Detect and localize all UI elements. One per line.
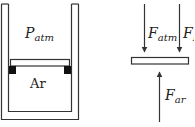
piston-weight-force-label: FP [182, 25, 194, 43]
cylinder: Patm Ar [2, 4, 79, 120]
cylinder-inner-wall [9, 4, 72, 112]
piston-diagram: Patm Ar Fatm FP Far [0, 0, 194, 127]
atmospheric-pressure-label: Patm [24, 25, 54, 43]
stop-block-left [9, 66, 16, 74]
argon-gas-label: Ar [29, 76, 46, 91]
stop-block-right [64, 66, 71, 74]
free-body-plate [132, 58, 189, 65]
free-body-diagram: Fatm FP Far [132, 4, 195, 122]
atmospheric-force-label: Fatm [147, 25, 177, 43]
piston [11, 60, 70, 67]
argon-force-label: Far [164, 87, 187, 105]
